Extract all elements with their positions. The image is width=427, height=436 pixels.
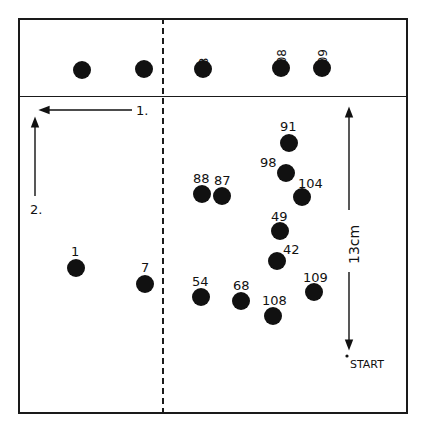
spot-dot bbox=[280, 134, 298, 152]
spot-dot bbox=[305, 283, 323, 301]
spot-label: 7 bbox=[139, 65, 151, 73]
spot-label: 109 bbox=[303, 271, 328, 284]
spot-label: 1 bbox=[77, 66, 89, 74]
spot-label: 42 bbox=[283, 243, 300, 256]
spot-label: 1 bbox=[71, 245, 79, 258]
spot-label: 68 bbox=[233, 279, 250, 292]
spot-dot bbox=[271, 222, 289, 240]
spot-dot bbox=[192, 288, 210, 306]
spot-dot bbox=[136, 275, 154, 293]
scale-label: 13cm bbox=[348, 225, 360, 264]
spot-label: 88 bbox=[198, 58, 210, 73]
spot-label: 54 bbox=[192, 275, 209, 288]
start-point bbox=[345, 354, 348, 357]
spot-label: 49 bbox=[271, 210, 288, 223]
spot-label: 98 bbox=[260, 156, 277, 169]
spot-dot bbox=[213, 187, 231, 205]
direction-label-2: 2. bbox=[30, 203, 42, 216]
spot-dot bbox=[67, 259, 85, 277]
spot-label: 109 bbox=[317, 49, 329, 72]
spot-label: 108 bbox=[276, 49, 288, 72]
spot-dot bbox=[193, 185, 211, 203]
spot-dot bbox=[277, 164, 295, 182]
spot-label: 87 bbox=[214, 174, 231, 187]
spot-label: 7 bbox=[141, 261, 149, 274]
spot-dot bbox=[232, 292, 250, 310]
spot-label: 91 bbox=[280, 120, 297, 133]
direction-label-1: 1. bbox=[136, 104, 148, 117]
spot-label: 104 bbox=[298, 177, 323, 190]
spot-label: 108 bbox=[262, 294, 287, 307]
spot-dot bbox=[264, 307, 282, 325]
spot-label: 88 bbox=[193, 172, 210, 185]
start-label: START bbox=[350, 358, 384, 371]
